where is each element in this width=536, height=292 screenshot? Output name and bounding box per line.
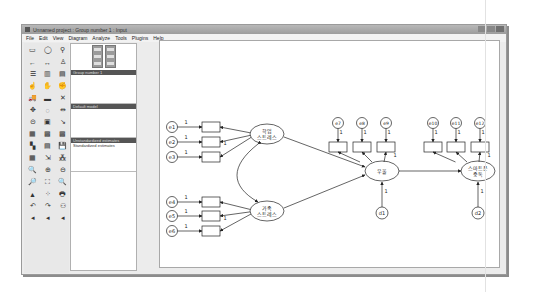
loading-path[interactable] (338, 152, 360, 162)
rotate-indicators-icon[interactable]: ◌ (41, 105, 54, 115)
reflect-indicators-icon[interactable]: ⇹ (56, 105, 69, 115)
close-button[interactable] (496, 26, 504, 32)
observed-variable[interactable] (202, 137, 220, 147)
draw-path-icon[interactable]: ← (26, 57, 39, 67)
error-label: e1 (169, 124, 175, 130)
toolbox: ▭◯⚲←↔♙☰▥▤☝✋✊🚚▬✕✥◌⇹⊝▣↘▦▩▩▚▤💾▦⇲⁂🔍⊕⊖🔎⛶🔍▲⁘🖶↶… (24, 43, 69, 273)
latent-label: 스트레스 (257, 211, 277, 218)
loading-path[interactable] (479, 152, 480, 162)
fixed-parameter-label: 1 (184, 223, 187, 229)
loading-path[interactable] (433, 152, 456, 162)
preserve-symmetries-icon[interactable]: ⁂ (56, 153, 69, 163)
move-parameter-icon[interactable]: ⊝ (26, 117, 39, 127)
select-one-object-icon[interactable]: ▤ (56, 69, 69, 79)
specification-search-icon[interactable]: ⚇ (56, 201, 69, 211)
erase-icon[interactable]: ✕ (56, 93, 69, 103)
view-input-diagram-button[interactable] (92, 45, 103, 68)
groups-list[interactable] (71, 75, 136, 104)
observed-variable[interactable] (471, 142, 489, 152)
view-toggle-row (71, 44, 136, 70)
draw-covariance-icon[interactable]: ↔ (41, 57, 54, 67)
save-icon[interactable]: 💾 (56, 141, 69, 151)
observed-variable[interactable] (329, 142, 347, 152)
view-page-icon[interactable]: 🔎 (26, 177, 39, 187)
scroll-left-2-icon[interactable]: ◂ (41, 213, 54, 223)
title-bar[interactable]: Unnamed project : Group number 1 : Input (22, 25, 506, 34)
multiple-group-analysis-icon[interactable]: ⁘ (41, 189, 54, 199)
erase-objects-icon[interactable]: ▬ (41, 93, 54, 103)
undo-icon[interactable]: ↶ (26, 201, 39, 211)
draw-observed-variable-icon[interactable]: ▭ (26, 45, 39, 55)
move-objects-icon[interactable]: 🚚 (26, 93, 39, 103)
deselect-all-objects-icon[interactable]: ✋ (41, 81, 54, 91)
observed-variable[interactable] (447, 142, 465, 152)
observed-variable[interactable] (202, 211, 220, 221)
duplicate-objects-icon[interactable]: ✊ (56, 81, 69, 91)
print-icon[interactable]: 🖶 (56, 189, 69, 199)
models-list[interactable] (71, 109, 136, 138)
menu-edit[interactable]: Edit (39, 35, 48, 41)
latent-label: 스트레스 (257, 134, 277, 141)
menu-view[interactable]: View (53, 35, 64, 41)
observed-variable[interactable] (202, 197, 220, 207)
scroll-left-1-icon[interactable]: ◂ (26, 213, 39, 223)
object-properties-icon[interactable]: ▦ (26, 153, 39, 163)
touch-up-icon[interactable]: ↘ (56, 117, 69, 127)
menu-analyze[interactable]: Analyze (92, 35, 110, 41)
add-unique-variable-icon[interactable]: ♙ (56, 57, 69, 67)
covariance-arrow[interactable] (237, 144, 258, 202)
window-title: Unnamed project : Group number 1 : Input (33, 27, 127, 33)
scroll-left-3-icon[interactable]: ◂ (56, 213, 69, 223)
fixed-parameter-label: 1 (487, 152, 490, 158)
redo-icon[interactable]: ↷ (41, 201, 54, 211)
fixed-parameter-label: 1 (384, 188, 387, 194)
calculate-estimates-icon[interactable]: ▩ (56, 129, 69, 139)
zoom-in-icon[interactable]: ⊕ (41, 165, 54, 175)
error-label: e7 (335, 121, 341, 126)
view-output-diagram-button[interactable] (105, 45, 116, 68)
observed-variable[interactable] (353, 142, 371, 152)
loupe-icon[interactable]: 🔍 (56, 177, 69, 187)
loading-path[interactable] (220, 127, 251, 133)
error-label: e12 (476, 121, 485, 126)
change-shape-icon[interactable]: ✥ (26, 105, 39, 115)
observed-variable[interactable] (424, 142, 442, 152)
structural-path[interactable] (284, 175, 365, 208)
menu-plugins[interactable]: Plugins (132, 35, 148, 41)
list-variables-in-model-icon[interactable]: ☰ (26, 69, 39, 79)
observed-variable[interactable] (202, 122, 220, 132)
scroll-icon[interactable]: ▣ (41, 117, 54, 127)
observed-variable[interactable] (202, 226, 220, 236)
maximize-button[interactable] (487, 26, 495, 32)
observed-variable[interactable] (377, 142, 395, 152)
list-variables-in-dataset-icon[interactable]: ▥ (41, 69, 54, 79)
model-navigation-panel: Group number 1 Default model Unstandardi… (70, 43, 137, 271)
select-data-files-icon[interactable]: ▦ (26, 129, 39, 139)
drag-properties-icon[interactable]: ⇲ (41, 153, 54, 163)
fit-to-page-icon[interactable]: ⛶ (41, 177, 54, 187)
sem-path-diagram[interactable]: e11e21e31e41e51e6111학업스트레스가족스트레스우울스마트폰중독… (160, 41, 501, 269)
menu-diagram[interactable]: Diagram (68, 35, 87, 41)
loading-path[interactable] (456, 152, 467, 162)
menu-file[interactable]: File (26, 35, 34, 41)
fixed-parameter-label: 1 (184, 194, 187, 200)
analysis-properties-icon[interactable]: ▩ (41, 129, 54, 139)
standardized-estimates-option[interactable]: Standardized estimates (71, 143, 136, 148)
error-label: e3 (169, 154, 175, 160)
loading-path[interactable] (362, 152, 372, 162)
observed-variable[interactable] (202, 152, 220, 162)
path-diagram-canvas[interactable]: e11e21e31e41e51e6111학업스트레스가족스트레스우울스마트폰중독… (159, 40, 500, 268)
draw-latent-indicator-icon[interactable]: ⚲ (56, 45, 69, 55)
select-all-objects-icon[interactable]: ☝ (26, 81, 39, 91)
zoom-out-icon[interactable]: ⊖ (56, 165, 69, 175)
view-text-icon[interactable]: ▤ (41, 141, 54, 151)
draw-unobserved-variable-icon[interactable]: ◯ (41, 45, 54, 55)
bayesian-estimation-icon[interactable]: ▲ (26, 189, 39, 199)
loading-path[interactable] (384, 152, 386, 162)
fixed-parameter-label: 1 (393, 152, 396, 158)
menu-tools[interactable]: Tools (115, 35, 127, 41)
copy-to-clipboard-icon[interactable]: ▚ (26, 141, 39, 151)
files-list[interactable] (71, 172, 136, 232)
zoom-select-icon[interactable]: 🔍 (26, 165, 39, 175)
loading-path[interactable] (220, 202, 251, 210)
